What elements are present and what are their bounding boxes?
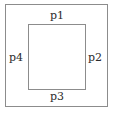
label-p2-right: p2 bbox=[88, 52, 102, 63]
diagram-canvas: p1 p2 p3 p4 bbox=[0, 0, 114, 114]
inner-square bbox=[28, 24, 86, 90]
label-p1-top: p1 bbox=[0, 10, 114, 21]
label-p3-bottom: p3 bbox=[0, 91, 114, 102]
label-p4-left: p4 bbox=[9, 52, 23, 63]
